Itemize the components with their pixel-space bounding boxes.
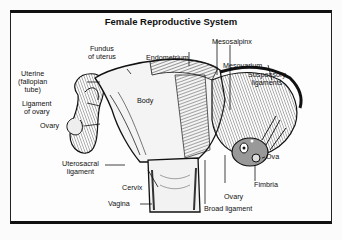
cervix-vagina <box>148 158 200 212</box>
label-mesosalpinx: Mesosalpinx <box>212 38 252 46</box>
label-ovary-right: Ovary <box>224 193 243 201</box>
label-suspensory-ligaments: Suspensory ligaments <box>248 71 286 87</box>
label-ovary-left: Ovary <box>40 122 59 130</box>
label-vagina: Vagina <box>108 200 130 208</box>
label-fundus: Fundus of uterus <box>88 45 116 61</box>
uterus-body <box>95 59 225 162</box>
label-mesovarium: Mesovarium <box>223 62 262 70</box>
left-fallopian-tube <box>67 74 104 153</box>
label-uterine-tube: Uterine (fallopian tube) <box>18 70 47 94</box>
label-body: Body <box>137 97 153 105</box>
label-ligament-of-ovary: Ligament of ovary <box>22 100 52 116</box>
label-endometrium: Endometrium <box>146 54 189 62</box>
right-ovary-shape <box>232 138 268 166</box>
label-cervix: Cervix <box>122 184 142 192</box>
ova-shape <box>252 154 260 162</box>
label-broad-ligament: Broad ligament <box>204 205 252 213</box>
label-ova: Ova <box>266 153 279 161</box>
label-uterosacral-ligament: Uterosacral ligament <box>62 160 99 176</box>
label-fimbria: Fimbria <box>254 181 278 189</box>
